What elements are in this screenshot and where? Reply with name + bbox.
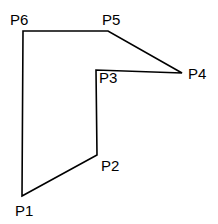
polygon-figure: P6 P5 P4 P3 P2 P1 (0, 0, 218, 224)
vertex-label-p6: P6 (10, 12, 28, 27)
vertex-label-p4: P4 (188, 66, 206, 81)
vertex-label-p5: P5 (102, 12, 120, 27)
vertex-label-p1: P1 (15, 203, 33, 218)
vertex-label-p2: P2 (101, 158, 119, 173)
vertex-label-p3: P3 (99, 70, 117, 85)
polygon-svg (0, 0, 218, 224)
